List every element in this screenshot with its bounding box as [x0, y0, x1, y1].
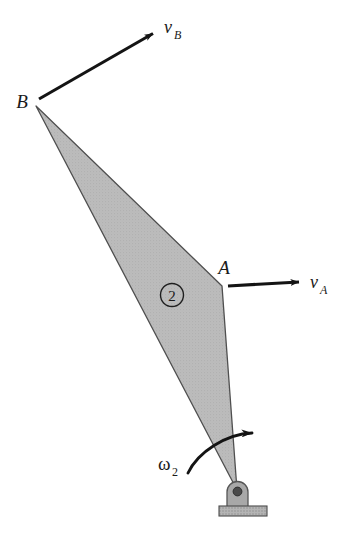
velocity-b-symbol: v — [164, 17, 172, 37]
omega-2-symbol: ω — [158, 453, 171, 474]
link-number-text: 2 — [168, 288, 176, 304]
omega-2-subscript: 2 — [172, 465, 178, 479]
pivot-hole — [233, 487, 242, 496]
ground-support-bar — [219, 506, 267, 516]
velocity-b-subscript: B — [174, 28, 182, 42]
point-label-a: A — [216, 257, 230, 278]
velocity-a-symbol: v — [310, 272, 318, 292]
point-label-b: B — [16, 91, 28, 112]
kinematics-diagram: 2 B A v B v A ω 2 — [0, 0, 353, 541]
figure-canvas: 2 B A v B v A ω 2 — [0, 0, 353, 541]
velocity-a-subscript: A — [319, 283, 328, 297]
